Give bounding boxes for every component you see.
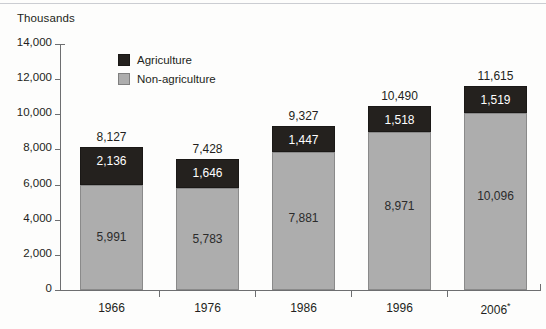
- x-axis-tick: [351, 291, 352, 297]
- bar-total-label: 7,428: [176, 142, 239, 156]
- y-axis-tick-label: 8,000: [0, 141, 52, 153]
- y-axis-tick: [55, 290, 61, 291]
- segment-agriculture-value: 1,447: [273, 133, 334, 147]
- segment-non-agriculture-value: 7,881: [273, 211, 334, 225]
- legend-swatch-agriculture: [118, 54, 130, 66]
- segment-non-agriculture[interactable]: 5,991: [80, 185, 143, 290]
- segment-non-agriculture-value: 5,783: [177, 232, 238, 246]
- bar-1986[interactable]: 9,3271,4477,881: [272, 126, 335, 290]
- bar-total-label: 11,615: [464, 69, 527, 83]
- y-axis-tick-label: 4,000: [0, 212, 52, 224]
- segment-non-agriculture[interactable]: 5,783: [176, 188, 239, 290]
- bar-1966[interactable]: 8,1272,1365,991: [80, 147, 143, 290]
- segment-agriculture-value: 1,646: [177, 166, 238, 180]
- x-axis-label-1996: 1996: [368, 301, 431, 315]
- x-axis-label-1966: 1966: [80, 301, 143, 315]
- y-axis-tick: [55, 79, 61, 80]
- bar-total-label: 9,327: [272, 109, 335, 123]
- legend-swatch-non-agriculture: [118, 73, 130, 85]
- legend-label-agriculture: Agriculture: [137, 54, 192, 66]
- legend-item-agriculture[interactable]: Agriculture: [118, 50, 216, 69]
- segment-non-agriculture[interactable]: 8,971: [368, 132, 431, 290]
- page-top-rule: [0, 3, 546, 4]
- x-axis-label-1976: 1976: [176, 301, 239, 315]
- legend-item-non-agriculture[interactable]: Non-agriculture: [118, 69, 216, 88]
- y-axis-tick-label: 2,000: [0, 247, 52, 259]
- segment-agriculture[interactable]: 1,518: [368, 106, 431, 133]
- footnote-asterisk: *: [507, 301, 511, 311]
- segment-agriculture[interactable]: 1,519: [464, 86, 527, 113]
- segment-non-agriculture-value: 8,971: [369, 199, 430, 213]
- x-axis-label-2006: 2006*: [464, 301, 527, 317]
- segment-non-agriculture-value: 10,096: [465, 189, 526, 203]
- segment-agriculture-value: 1,518: [369, 113, 430, 127]
- y-axis-tick: [55, 220, 61, 221]
- y-axis-tick: [55, 149, 61, 150]
- y-axis-tick: [55, 114, 61, 115]
- segment-agriculture-value: 2,136: [81, 154, 142, 168]
- y-axis-tick-label: 14,000: [0, 36, 52, 48]
- y-axis-tick-label: 0: [0, 282, 52, 294]
- y-axis-tick-label: 10,000: [0, 106, 52, 118]
- x-axis-label-1986: 1986: [272, 301, 335, 315]
- bar-total-label: 8,127: [80, 130, 143, 144]
- segment-agriculture[interactable]: 2,136: [80, 147, 143, 185]
- y-axis-tick: [55, 185, 61, 186]
- segment-non-agriculture[interactable]: 7,881: [272, 152, 335, 290]
- legend: Agriculture Non-agriculture: [118, 50, 216, 88]
- bar-1996[interactable]: 10,4901,5188,971: [368, 106, 431, 290]
- bar-total-label: 10,490: [368, 89, 431, 103]
- segment-agriculture[interactable]: 1,447: [272, 126, 335, 151]
- x-axis-end-cap: [540, 284, 541, 291]
- x-axis-tick: [159, 291, 160, 297]
- segment-non-agriculture[interactable]: 10,096: [464, 113, 527, 290]
- y-axis-tick-label: 6,000: [0, 177, 52, 189]
- x-axis-tick: [255, 291, 256, 297]
- x-axis-line: [60, 290, 541, 291]
- y-axis-tick: [55, 255, 61, 256]
- x-axis-tick: [447, 291, 448, 297]
- bar-1976[interactable]: 7,4281,6465,783: [176, 159, 239, 290]
- segment-agriculture[interactable]: 1,646: [176, 159, 239, 188]
- bar-2006[interactable]: 11,6151,51910,096: [464, 86, 527, 290]
- legend-label-non-agriculture: Non-agriculture: [137, 73, 216, 85]
- segment-agriculture-value: 1,519: [465, 93, 526, 107]
- segment-non-agriculture-value: 5,991: [81, 230, 142, 244]
- y-axis-tick: [55, 44, 61, 45]
- y-axis-tick-label: 12,000: [0, 71, 52, 83]
- chart-page: Thousands 02,0004,0006,0008,00010,00012,…: [0, 0, 546, 329]
- y-axis-unit-label: Thousands: [17, 12, 75, 24]
